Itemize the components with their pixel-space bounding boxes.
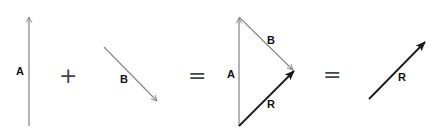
- equals-sign-1: =: [188, 63, 206, 88]
- resultant-panel: R: [369, 42, 425, 99]
- vector-triangle-panel: A B R: [227, 17, 294, 126]
- vector-b-label: B: [120, 73, 128, 85]
- vector-a-label: A: [16, 65, 24, 77]
- equals-sign-2: =: [323, 62, 341, 87]
- triangle-vector-a-label: A: [227, 68, 235, 80]
- resultant-vector-r-label: R: [398, 71, 406, 83]
- triangle-vector-r-label: R: [267, 98, 275, 110]
- vector-b-arrow: [104, 47, 157, 101]
- resultant-vector-r-arrow: [369, 42, 425, 99]
- triangle-vector-b-arrow: [239, 17, 293, 70]
- vector-addition-diagram: A + B = A B R = R: [0, 0, 439, 139]
- vector-b-panel: B: [104, 47, 157, 101]
- vector-a-panel: A: [16, 17, 29, 126]
- plus-sign: +: [59, 63, 77, 88]
- triangle-vector-b-label: B: [267, 34, 275, 46]
